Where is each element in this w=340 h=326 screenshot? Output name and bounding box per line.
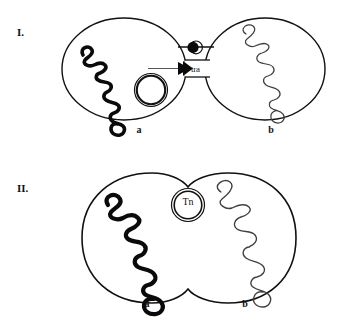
panel-one-cell-a-label: a bbox=[129, 124, 149, 135]
panel-one-cell-b-label: b bbox=[261, 124, 281, 135]
panel-two-cell-b-label: b bbox=[235, 298, 255, 309]
panel-one-cell-b-membrane bbox=[205, 18, 325, 120]
panel-two-cell-a-label: a bbox=[137, 298, 157, 309]
panel-two-numeral: II. bbox=[17, 182, 28, 194]
figure-canvas: I. II. a b a b tra Tn bbox=[0, 0, 340, 326]
conjugation-transposition-diagram bbox=[0, 0, 340, 326]
panel-one-numeral: I. bbox=[17, 26, 24, 38]
transposon-label: Tn bbox=[176, 196, 200, 207]
pilus-knob-icon bbox=[187, 42, 198, 53]
tra-gene-label: tra bbox=[191, 64, 200, 74]
